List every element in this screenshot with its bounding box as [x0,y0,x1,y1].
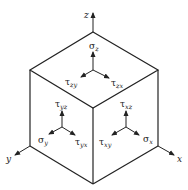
sigma-y-arrow [49,127,62,134]
x-axis-arrow [158,146,174,155]
tau-zy-arrow [81,70,93,77]
tau-yx-arrow [62,127,75,135]
left-face-stress-arrows [49,111,75,135]
tau-xz-label: τxz [120,99,133,111]
tau-zy-label: τzy [65,77,77,89]
axes [15,13,174,155]
tau-yz-label: τyz [55,99,68,111]
x-axis-label: x [177,154,182,164]
sigma-x-arrow [126,127,139,135]
sigma-y-label: σy [38,135,48,147]
diagram-canvas: z x y σz τzy τzx τyz σy τyx τxz τxy σx [0,0,188,190]
sigma-x-label: σx [143,134,153,146]
top-face-stress-arrows [81,52,109,78]
stress-cube-diagram: z x y σz τzy τzx τyz σy τyx τxz τxy σx [0,0,188,190]
right-face-stress-arrows [112,111,139,135]
tau-zx-label: τzx [111,78,123,90]
tau-yx-label: τyx [75,137,88,149]
tau-zx-arrow [93,70,109,78]
tau-xy-arrow [112,127,126,135]
cube-edge-bottom-right [93,146,158,184]
sigma-z-label: σz [89,41,99,53]
cube-edges [30,32,158,184]
z-axis-label: z [83,10,89,20]
cube-edge-bottom-left [30,146,93,184]
tau-xy-label: τxy [99,137,112,149]
y-axis-arrow [15,146,30,155]
y-axis-label: y [5,154,12,164]
